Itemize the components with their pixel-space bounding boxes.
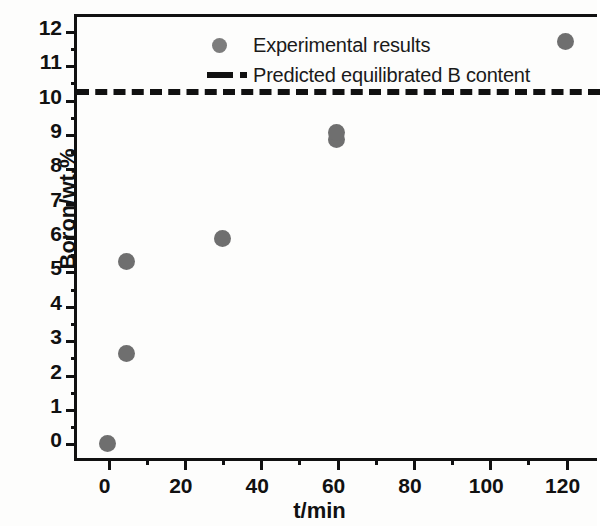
x-tick-minor (375, 458, 378, 465)
x-tick-major (184, 458, 187, 470)
dashed-line-marker-tail-icon (240, 72, 247, 78)
x-tick-major (337, 458, 340, 470)
predicted-equilibrated-b-content-line (77, 89, 600, 95)
y-tick-label: 11 (40, 50, 62, 74)
x-tick-label: 120 (545, 474, 580, 498)
y-tick-major (66, 340, 77, 343)
x-tick-label: 20 (169, 474, 192, 498)
y-tick-major (66, 409, 77, 412)
y-tick-major (66, 237, 77, 240)
x-tick-major (260, 458, 263, 470)
legend-item-predicted-equilibrated: Predicted equilibrated B content (205, 61, 535, 89)
y-tick-major (66, 203, 77, 206)
y-tick-minor (71, 323, 77, 326)
x-tick-label: 40 (246, 474, 269, 498)
x-tick-major (566, 458, 569, 470)
y-tick-minor (71, 117, 77, 120)
circle-marker-icon (212, 38, 227, 53)
dashed-line-marker-icon (207, 72, 233, 78)
x-tick-minor (146, 458, 149, 465)
y-tick-label: 12 (39, 16, 62, 40)
legend-item-experimental-results: Experimental results (205, 31, 535, 59)
y-tick-major (66, 134, 77, 137)
legend-label-experimental: Experimental results (253, 34, 430, 57)
y-tick-label: 1 (50, 394, 62, 418)
y-tick-minor (71, 426, 77, 429)
y-tick-major (66, 443, 77, 446)
x-tick-label: 80 (398, 474, 421, 498)
y-tick-major (66, 306, 77, 309)
data-point (214, 230, 231, 247)
y-tick-label: 2 (50, 360, 62, 384)
y-tick-major (66, 100, 77, 103)
y-tick-label: 10 (39, 85, 62, 109)
legend-key-experimental (205, 38, 253, 53)
x-tick-label: 0 (99, 474, 111, 498)
y-axis-tick-labels: 0123456789101112 (0, 14, 62, 461)
data-point (118, 345, 135, 362)
data-point (328, 124, 345, 141)
x-tick-minor (298, 458, 301, 465)
y-tick-label: 3 (50, 325, 62, 349)
legend-key-predicted (205, 72, 253, 78)
y-tick-major (66, 271, 77, 274)
y-tick-minor (71, 357, 77, 360)
x-tick-major (108, 458, 111, 470)
x-tick-label: 60 (322, 474, 345, 498)
y-tick-minor (71, 220, 77, 223)
y-tick-minor (71, 289, 77, 292)
x-tick-major (489, 458, 492, 470)
y-tick-minor (71, 254, 77, 257)
data-point (557, 33, 574, 50)
y-tick-minor (71, 392, 77, 395)
x-tick-label: 100 (469, 474, 504, 498)
data-point (118, 253, 135, 270)
y-tick-major (66, 168, 77, 171)
y-tick-major (66, 65, 77, 68)
x-tick-minor (222, 458, 225, 465)
x-tick-minor (451, 458, 454, 465)
y-tick-label: 0 (50, 428, 62, 452)
chart-legend: Experimental results Predicted equilibra… (205, 31, 535, 89)
x-axis-title: t/min (0, 498, 597, 524)
x-tick-minor (527, 458, 530, 465)
x-tick-major (413, 458, 416, 470)
y-tick-minor (71, 185, 77, 188)
y-tick-major (66, 31, 77, 34)
legend-label-predicted: Predicted equilibrated B content (253, 64, 530, 87)
y-tick-minor (71, 151, 77, 154)
plot-area: Experimental results Predicted equilibra… (74, 14, 597, 461)
y-tick-minor (71, 82, 77, 85)
y-tick-minor (71, 48, 77, 51)
y-tick-major (66, 375, 77, 378)
data-point (99, 435, 116, 452)
